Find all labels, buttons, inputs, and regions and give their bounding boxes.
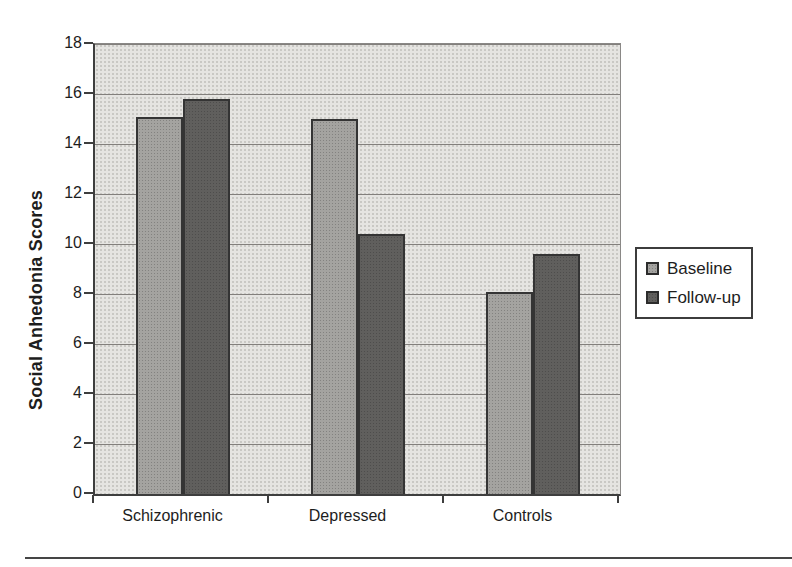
legend-label-baseline: Baseline [667,259,732,279]
y-tick-mark-16 [84,92,93,94]
y-tick-label-6: 6 [38,334,82,352]
plot-area [93,43,621,496]
y-tick-label-4: 4 [38,384,82,402]
figure-bottom-rule [25,557,792,559]
x-tick-label-schizophrenic: Schizophrenic [88,507,258,525]
bar-follow-up-schizophrenic [183,99,230,494]
legend-swatch-baseline [646,262,659,275]
bar-baseline-schizophrenic [136,117,183,495]
y-tick-mark-18 [84,42,93,44]
gridline-y-16 [95,94,620,95]
y-tick-mark-8 [84,292,93,294]
legend-swatch-follow-up [646,291,659,304]
legend: BaselineFollow-up [635,247,753,319]
bar-baseline-depressed [311,119,358,494]
legend-item-baseline: Baseline [646,259,742,279]
y-tick-label-18: 18 [38,34,82,52]
y-tick-label-10: 10 [38,234,82,252]
y-tick-mark-14 [84,142,93,144]
y-tick-mark-6 [84,342,93,344]
bar-baseline-controls [486,292,533,495]
y-tick-label-14: 14 [38,134,82,152]
x-tick-mark-2 [442,495,444,503]
y-tick-mark-12 [84,192,93,194]
x-tick-mark-0 [92,495,94,503]
y-tick-mark-10 [84,242,93,244]
bar-follow-up-controls [533,254,580,494]
bar-follow-up-depressed [358,234,405,494]
legend-label-follow-up: Follow-up [667,288,741,308]
y-tick-label-0: 0 [38,484,82,502]
y-tick-mark-2 [84,442,93,444]
y-tick-label-12: 12 [38,184,82,202]
figure: Social Anhedonia Scores 024681012141618 … [0,0,792,567]
y-tick-label-8: 8 [38,284,82,302]
x-tick-label-depressed: Depressed [263,507,433,525]
y-tick-mark-0 [84,492,93,494]
x-tick-label-controls: Controls [438,507,608,525]
legend-item-follow-up: Follow-up [646,288,742,308]
y-tick-label-2: 2 [38,434,82,452]
gridline-y-18 [95,44,620,45]
y-tick-mark-4 [84,392,93,394]
x-tick-mark-1 [267,495,269,503]
y-tick-label-16: 16 [38,84,82,102]
x-tick-mark-3 [617,495,619,503]
